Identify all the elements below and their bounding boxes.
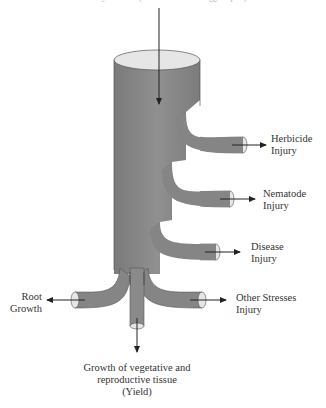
label-yield: Growth of vegetative and reproductive ti… xyxy=(57,362,217,398)
label-nematode: Nematode Injury xyxy=(263,188,306,212)
root-branch xyxy=(75,268,130,308)
trunk-top-opening xyxy=(114,50,200,70)
top-caption: Photosynthesis (carbon and energy input) xyxy=(40,0,280,3)
yield-branch xyxy=(130,268,144,326)
label-root-growth: Root Growth xyxy=(2,291,42,315)
label-other-stresses: Other Stresses Injury xyxy=(236,292,296,316)
label-disease: Disease Injury xyxy=(251,241,284,265)
label-herbicide: Herbicide Injury xyxy=(271,133,312,157)
